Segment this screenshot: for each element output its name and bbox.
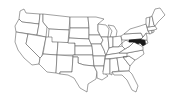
- state-me: [152, 8, 165, 26]
- state-oh: [113, 36, 122, 47]
- state-co: [57, 42, 75, 55]
- us-map-container: United States (contiguous) Maryland: [0, 0, 171, 101]
- state-fl: [112, 71, 138, 92]
- state-az: [39, 54, 57, 73]
- state-nm: [56, 55, 73, 74]
- state-mi: [108, 25, 117, 37]
- state-in: [108, 37, 113, 48]
- state-nd: [70, 17, 89, 28]
- state-ks: [75, 46, 93, 55]
- state-sd: [69, 28, 89, 39]
- state-ar: [93, 56, 105, 66]
- us-map: [0, 0, 171, 101]
